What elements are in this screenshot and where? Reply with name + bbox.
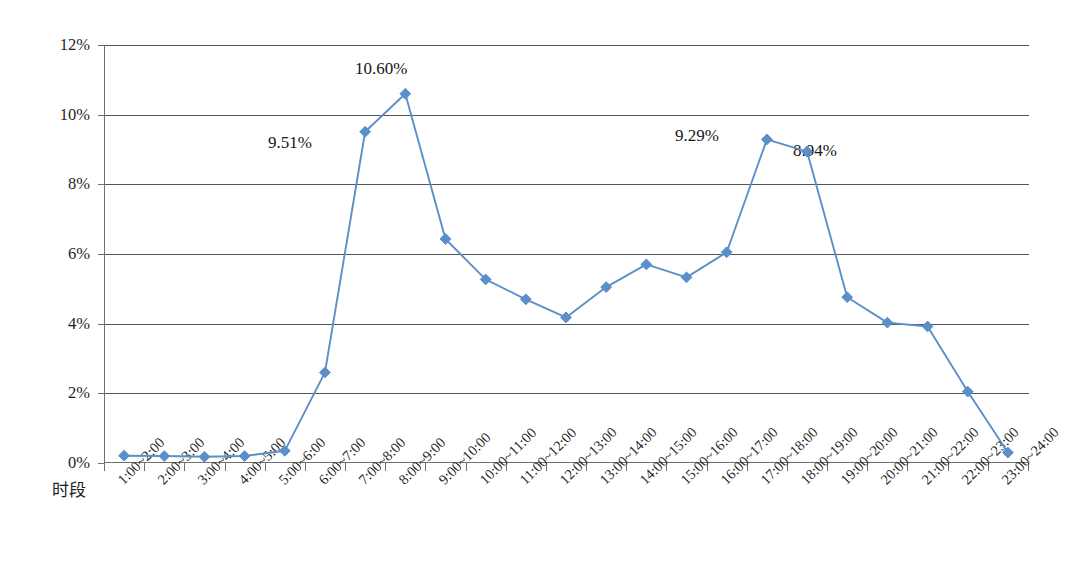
x-axis-title: 时段 [52, 476, 86, 501]
data-point-label: 10.60% [355, 60, 407, 77]
y-axis-tick-label: 4% [38, 316, 90, 333]
y-axis-tick [98, 254, 105, 255]
y-axis-tick-label: 12% [38, 37, 90, 54]
data-point-label: 9.29% [675, 127, 719, 144]
plot-area [104, 45, 1028, 463]
x-axis-tick [104, 463, 105, 471]
y-axis-tick [98, 393, 105, 394]
gridline [105, 115, 1029, 116]
gridline [105, 184, 1029, 185]
gridline [105, 254, 1029, 255]
gridline [105, 45, 1029, 46]
y-axis-tick [98, 45, 105, 46]
y-axis-tick-label: 2% [38, 385, 90, 402]
y-axis-tick-label: 0% [38, 455, 90, 472]
data-point-label: 8.94% [793, 142, 837, 159]
y-axis-tick [98, 184, 105, 185]
y-axis-tick [98, 115, 105, 116]
y-axis-tick-label: 10% [38, 107, 90, 124]
y-axis-tick [98, 324, 105, 325]
data-point-label: 9.51% [268, 134, 312, 151]
line-chart: 0%2%4%6%8%10%12% 1:00~2:002:00~3:003:00~… [0, 0, 1088, 584]
y-axis-tick-label: 6% [38, 246, 90, 263]
gridline [105, 324, 1029, 325]
y-axis-tick-label: 8% [38, 176, 90, 193]
gridline [105, 393, 1029, 394]
